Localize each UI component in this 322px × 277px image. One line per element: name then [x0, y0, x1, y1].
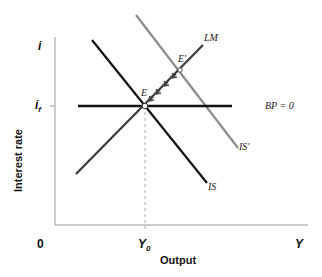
is-prime-curve [136, 15, 238, 148]
y-axis-end-label: i [38, 39, 41, 53]
y-tick-label: if [35, 98, 41, 114]
bp-label: BP = 0 [265, 100, 294, 111]
y-axis-title: Interest rate [12, 129, 24, 192]
is-prime-label: IS' [239, 141, 249, 152]
e-label: E [141, 87, 147, 98]
lm-label: LM [204, 32, 218, 43]
x-axis-title: Output [160, 254, 196, 266]
point-e [142, 103, 148, 109]
point-e-prime [178, 68, 182, 72]
is-curve [92, 40, 207, 183]
is-label: IS [208, 181, 216, 192]
diagram-canvas [0, 0, 322, 277]
x-tick-label: Y0 [138, 237, 150, 253]
x-axis-end-label: Y [295, 237, 303, 251]
origin-label: 0 [37, 237, 44, 251]
e-prime-label: E' [178, 53, 186, 64]
